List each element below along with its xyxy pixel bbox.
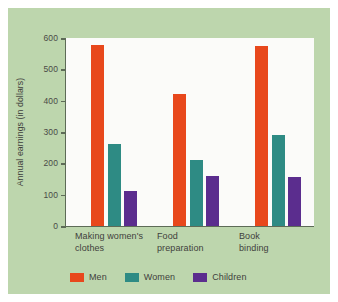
tick-mark bbox=[61, 195, 66, 197]
bar-men-1 bbox=[173, 94, 186, 226]
bar-women-1 bbox=[190, 160, 203, 226]
bar-children-2 bbox=[288, 177, 301, 226]
plot-area: 0100200300400500600 bbox=[65, 38, 314, 227]
legend-item-children[interactable]: Children bbox=[193, 272, 246, 282]
y-tick-label: 600 bbox=[44, 33, 58, 43]
category-label-0: Making women's clothes bbox=[75, 231, 143, 254]
chart-legend: MenWomenChildren bbox=[70, 272, 247, 282]
tick-mark bbox=[61, 69, 66, 71]
bar-group bbox=[173, 38, 219, 226]
y-tick-label: 400 bbox=[44, 96, 58, 106]
y-tick-label: 300 bbox=[44, 127, 58, 137]
legend-swatch-icon bbox=[193, 273, 207, 282]
y-axis-title: Annual earnings (in dollars) bbox=[15, 78, 25, 187]
bar-women-2 bbox=[272, 135, 285, 226]
y-tick-label: 0 bbox=[53, 221, 58, 231]
y-tick-label: 200 bbox=[44, 158, 58, 168]
tick-mark bbox=[61, 226, 66, 228]
legend-item-women[interactable]: Women bbox=[125, 272, 175, 282]
legend-label: Men bbox=[89, 272, 107, 282]
tick-mark bbox=[61, 101, 66, 103]
y-tick-label: 100 bbox=[44, 190, 58, 200]
chart-figure: Annual earnings (in dollars) 01002003004… bbox=[8, 8, 330, 294]
legend-swatch-icon bbox=[70, 273, 84, 282]
tick-mark bbox=[61, 38, 66, 40]
bar-group bbox=[255, 38, 301, 226]
legend-swatch-icon bbox=[125, 273, 139, 282]
category-label-1: Food preparation bbox=[157, 231, 204, 254]
bar-group bbox=[91, 38, 137, 226]
category-label-2: Book binding bbox=[239, 231, 269, 254]
legend-label: Children bbox=[212, 272, 246, 282]
tick-mark bbox=[61, 163, 66, 165]
y-tick-label: 500 bbox=[44, 64, 58, 74]
bar-children-0 bbox=[124, 191, 137, 226]
legend-label: Women bbox=[144, 272, 175, 282]
bar-children-1 bbox=[206, 176, 219, 226]
bar-men-2 bbox=[255, 46, 268, 226]
bar-men-0 bbox=[91, 45, 104, 226]
bar-women-0 bbox=[108, 144, 121, 226]
tick-mark bbox=[61, 132, 66, 134]
legend-item-men[interactable]: Men bbox=[70, 272, 107, 282]
